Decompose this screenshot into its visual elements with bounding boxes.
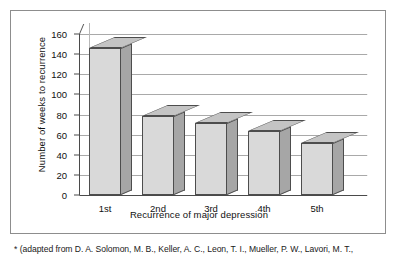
bar: [142, 116, 174, 195]
x-axis-title: Recurrence of major depression: [11, 209, 387, 220]
bar-side-face: [121, 43, 132, 195]
bar-front-face: [142, 116, 174, 195]
y-tick-label: 60: [56, 129, 67, 140]
y-tick-label: 80: [56, 109, 67, 120]
y-tick-label: 140: [51, 49, 67, 60]
y-tick-mark: [74, 114, 79, 115]
y-axis-line: [79, 34, 80, 195]
bar-front-face: [195, 123, 227, 195]
y-tick-label: 20: [56, 169, 67, 180]
y-tick-mark: [74, 195, 79, 196]
y-axis-depth-riser: [79, 24, 84, 34]
bar-side-face: [174, 111, 185, 195]
y-tick-label: 160: [51, 29, 67, 40]
figure-container: Number of weeks to recurrence 0204060801…: [0, 0, 397, 264]
y-tick-mark: [74, 34, 79, 35]
bar-front-face: [248, 131, 280, 195]
bar: [301, 143, 333, 195]
y-axis-title: Number of weeks to recurrence: [36, 20, 47, 190]
footnote-text: * (adapted from D. A. Solomon, M. B., Ke…: [14, 243, 389, 255]
y-tick-mark: [74, 94, 79, 95]
bar-side-face: [227, 118, 238, 195]
bar: [248, 131, 280, 195]
bar: [195, 123, 227, 195]
y-tick-mark: [74, 74, 79, 75]
gridline: [79, 195, 367, 196]
bar: [89, 48, 121, 195]
y-tick-mark: [74, 54, 79, 55]
y-tick-mark: [74, 134, 79, 135]
bar-front-face: [89, 48, 121, 195]
plot-area: 020406080100120140160 1st2nd3rd4th5th: [79, 34, 357, 195]
y-tick-label: 0: [62, 190, 67, 201]
y-tick-mark: [74, 154, 79, 155]
y-tick-label: 40: [56, 149, 67, 160]
y-tick-label: 100: [51, 89, 67, 100]
bar-side-face: [333, 138, 344, 195]
chart-frame: Number of weeks to recurrence 0204060801…: [10, 10, 386, 234]
y-tick-mark: [74, 174, 79, 175]
y-tick-label: 120: [51, 69, 67, 80]
bar-front-face: [301, 143, 333, 195]
bar-side-face: [280, 126, 291, 195]
gridline: [79, 34, 367, 35]
